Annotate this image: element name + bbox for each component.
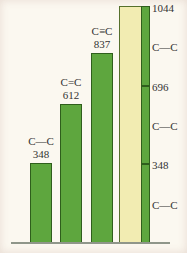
stacked-scale-column xyxy=(141,6,150,244)
rail-segment-label-top: C—C xyxy=(152,41,187,54)
bar-single-bond xyxy=(30,163,52,244)
bar-triple-bond xyxy=(91,53,113,244)
rail-tick-label-696: 696 xyxy=(152,81,187,94)
bar-value-label: 612 xyxy=(63,89,80,102)
bar-value-label: 837 xyxy=(94,38,111,51)
tick-348 xyxy=(142,163,149,165)
baseline-axis xyxy=(11,242,170,244)
bond-type-label: C—C xyxy=(28,135,54,148)
bond-type-label: C=C xyxy=(61,76,82,89)
bond-type-label: C≡C xyxy=(92,25,113,38)
bar-column-three-single-bonds xyxy=(119,6,142,244)
bar-three-single-bonds xyxy=(119,6,142,244)
tick-696 xyxy=(142,85,149,87)
bar-double-bond xyxy=(60,104,82,244)
bar-value-label: 348 xyxy=(33,148,50,161)
rail-segment-label-bottom: C—C xyxy=(152,199,187,212)
rail-tick-label-348: 348 xyxy=(152,159,187,172)
rail-segment-label-middle: C—C xyxy=(152,120,187,133)
bond-energy-chart: C—C 348 C=C 612 C≡C 837 1044 C—C 696 C—C… xyxy=(0,0,187,253)
rail-tick-label-1044: 1044 xyxy=(152,2,187,15)
bar-column-triple-bond: C≡C 837 xyxy=(82,25,122,244)
